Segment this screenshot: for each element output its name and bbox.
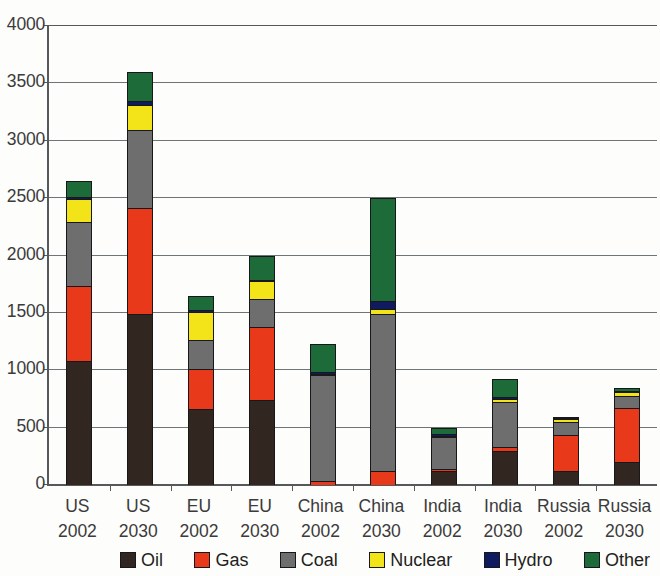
bar-group[interactable] [553,25,579,484]
legend-label: Gas [215,550,248,570]
legend-item-hydro[interactable]: Hydro [484,550,553,570]
bar-group[interactable] [370,25,396,484]
legend-label: Hydro [505,550,553,570]
bar-segment-gas[interactable] [127,208,153,315]
x-axis-category-label: US2002 [43,494,112,544]
bar-stack[interactable] [310,344,336,484]
x-tick [535,484,536,491]
bar-segment-other[interactable] [127,72,153,102]
bar-segment-coal[interactable] [188,340,214,370]
bar-segment-gas[interactable] [553,435,579,472]
bar-segment-oil[interactable] [614,462,640,485]
x-axis-category-label: Russia2002 [529,494,598,544]
x-tick [110,484,111,491]
bar-group[interactable] [66,25,92,484]
x-label-year: 2002 [286,519,355,544]
bar-group[interactable] [249,25,275,484]
x-label-year: 2030 [469,519,538,544]
chart-legend: OilGasCoalNuclearHydroOther [120,548,650,572]
bar-stack[interactable] [553,417,579,484]
bar-segment-oil[interactable] [127,314,153,485]
x-axis-category-label: EU2030 [225,494,294,544]
bar-segment-oil[interactable] [188,409,214,485]
bar-segment-other[interactable] [370,198,396,302]
bar-segment-other[interactable] [310,344,336,373]
legend-swatch-nuclear [369,552,385,568]
legend-label: Oil [141,550,163,570]
legend-item-other[interactable]: Other [584,550,650,570]
bar-stack[interactable] [492,379,518,484]
bar-segment-coal[interactable] [66,222,92,287]
bar-stack[interactable] [614,388,640,484]
x-label-year: 2030 [347,519,416,544]
y-axis-tick-label: 500 [0,418,45,436]
x-label-year: 2002 [529,519,598,544]
bar-group[interactable] [492,25,518,484]
bar-segment-gas[interactable] [188,369,214,410]
bar-stack[interactable] [127,72,153,484]
bar-segment-gas[interactable] [66,286,92,362]
y-axis-tick-label: 1000 [0,360,45,378]
bars-layer [49,25,657,484]
legend-swatch-oil [120,552,136,568]
x-axis-category-label: India2030 [469,494,538,544]
bar-stack[interactable] [249,256,275,484]
bar-segment-oil[interactable] [553,471,579,485]
x-axis-labels: US2002US2030EU2002EU2030China2002China20… [47,494,655,552]
bar-segment-coal[interactable] [431,437,457,470]
x-label-region: China [286,494,355,519]
bar-segment-coal[interactable] [310,375,336,482]
y-axis-tick-label: 3500 [0,73,45,91]
x-label-region: US [104,494,173,519]
y-axis-tick-label: 2500 [0,188,45,206]
bar-stack[interactable] [431,428,457,484]
legend-label: Coal [301,550,338,570]
x-axis-category-label: EU2002 [165,494,234,544]
legend-item-gas[interactable]: Gas [194,550,248,570]
bar-stack[interactable] [370,198,396,484]
x-label-region: Russia [590,494,659,519]
bar-group[interactable] [614,25,640,484]
bar-segment-coal[interactable] [127,130,153,209]
bar-segment-coal[interactable] [370,314,396,471]
x-axis-category-label: Russia2030 [590,494,659,544]
bar-segment-nuclear[interactable] [127,105,153,131]
bar-segment-other[interactable] [188,296,214,311]
x-label-region: Russia [529,494,598,519]
bar-segment-coal[interactable] [492,402,518,448]
bar-segment-gas[interactable] [614,408,640,463]
x-tick [475,484,476,491]
x-label-year: 2030 [104,519,173,544]
bar-group[interactable] [310,25,336,484]
bar-segment-nuclear[interactable] [249,281,275,300]
bar-segment-other[interactable] [249,256,275,281]
bar-group[interactable] [188,25,214,484]
x-axis-category-label: China2030 [347,494,416,544]
bar-group[interactable] [127,25,153,484]
y-axis-tick-label: 1500 [0,303,45,321]
bar-segment-oil[interactable] [431,471,457,485]
legend-item-coal[interactable]: Coal [280,550,338,570]
bar-segment-oil[interactable] [66,361,92,485]
bar-segment-nuclear[interactable] [188,312,214,341]
bar-group[interactable] [431,25,457,484]
bar-segment-coal[interactable] [553,422,579,436]
bar-segment-nuclear[interactable] [66,199,92,223]
bar-stack[interactable] [188,296,214,484]
legend-swatch-hydro [484,552,500,568]
bar-segment-coal[interactable] [249,299,275,328]
x-label-region: India [469,494,538,519]
bar-segment-oil[interactable] [249,400,275,485]
legend-item-oil[interactable]: Oil [120,550,163,570]
bar-segment-gas[interactable] [249,327,275,400]
bar-segment-gas[interactable] [310,481,336,485]
bar-segment-gas[interactable] [370,471,396,485]
bar-segment-other[interactable] [66,181,92,198]
bar-segment-oil[interactable] [492,451,518,485]
chart-container: 05001000150020002500300035004000 US2002U… [0,0,660,576]
x-label-region: India [408,494,477,519]
legend-item-nuclear[interactable]: Nuclear [369,550,452,570]
x-axis-category-label: US2030 [104,494,173,544]
bar-stack[interactable] [66,181,92,484]
bar-segment-other[interactable] [492,379,518,397]
